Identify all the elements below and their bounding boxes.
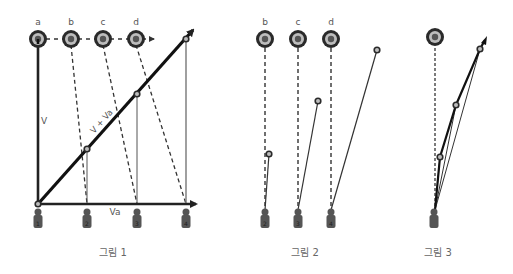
point-3 bbox=[314, 97, 321, 104]
weight-label-1: 1 bbox=[36, 220, 40, 227]
weight-label-4: 4 bbox=[184, 220, 188, 227]
figure-1: a b c d V Va V + Va bbox=[29, 17, 196, 258]
dashed-line-d bbox=[136, 45, 186, 204]
circle-label-c: c bbox=[101, 17, 106, 27]
caption-figure-2: 그림 2 bbox=[291, 247, 319, 258]
string-3 bbox=[298, 101, 318, 210]
circle-label-d: d bbox=[328, 17, 334, 27]
ring-d bbox=[127, 30, 145, 48]
weight-label-2: 2 bbox=[85, 220, 89, 227]
circle-label-b: b bbox=[262, 17, 268, 27]
point-2 bbox=[83, 145, 90, 152]
ring-c bbox=[94, 30, 112, 48]
circle-label-c: c bbox=[296, 17, 301, 27]
label-va: Va bbox=[110, 207, 121, 217]
point-3 bbox=[133, 90, 140, 97]
point-2 bbox=[265, 150, 272, 157]
weight bbox=[430, 209, 439, 229]
figure-3: 그림 3 bbox=[424, 28, 487, 258]
circle-label-d: d bbox=[133, 17, 139, 27]
figure-2: b c d 2 3 4 그림 2 bbox=[256, 17, 381, 258]
caption-figure-3: 그림 3 bbox=[424, 247, 452, 258]
ring bbox=[426, 28, 444, 46]
label-v: V bbox=[41, 116, 48, 126]
point-4 bbox=[373, 46, 380, 53]
dashed-line-b bbox=[71, 45, 87, 204]
weight-label-4: 4 bbox=[329, 220, 333, 227]
point-4 bbox=[476, 45, 483, 52]
ring-d bbox=[322, 30, 340, 48]
weight-label-2: 2 bbox=[263, 220, 267, 227]
weight-label-3: 3 bbox=[296, 220, 300, 227]
string-4 bbox=[435, 49, 480, 210]
ring-b bbox=[256, 30, 274, 48]
weight-label-3: 3 bbox=[135, 220, 139, 227]
ring-c bbox=[289, 30, 307, 48]
string-4 bbox=[331, 50, 377, 210]
diagram-canvas: a b c d V Va V + Va bbox=[0, 0, 513, 274]
vector-resultant bbox=[38, 30, 193, 204]
point-2 bbox=[436, 153, 443, 160]
caption-figure-1: 그림 1 bbox=[99, 247, 127, 258]
point-4 bbox=[182, 35, 189, 42]
circle-label-b: b bbox=[68, 17, 74, 27]
origin-point bbox=[34, 200, 41, 207]
point-3 bbox=[452, 101, 459, 108]
ring-b bbox=[62, 30, 80, 48]
circle-label-a: a bbox=[35, 17, 41, 27]
